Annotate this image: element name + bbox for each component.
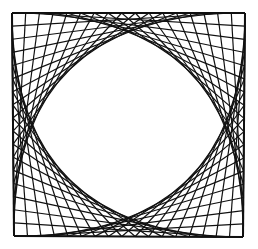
envelope-line: [53, 13, 245, 53]
envelope-line: [176, 79, 245, 237]
envelope-line: [81, 171, 243, 236]
string-art-figure: [0, 0, 258, 249]
envelope-line: [13, 13, 177, 79]
envelope-line: [176, 13, 243, 171]
envelope-line: [14, 197, 203, 237]
envelope-line: [81, 13, 245, 79]
envelope-line: [13, 105, 108, 237]
envelope-line: [13, 170, 175, 236]
envelope-line: [13, 79, 82, 237]
string-art-canvas: [0, 0, 258, 249]
envelope-line: [13, 13, 80, 170]
